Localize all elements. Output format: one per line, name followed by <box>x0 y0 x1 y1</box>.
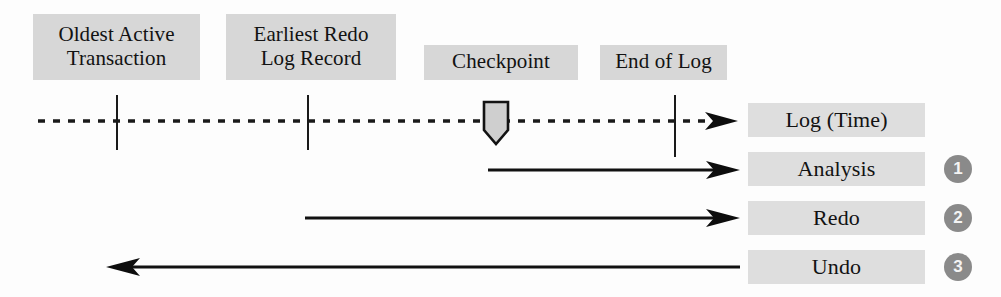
marker-label-line1: Oldest Active <box>58 23 174 47</box>
track-label-text: Analysis <box>798 157 876 182</box>
marker-label-line2: Log Record <box>261 47 362 71</box>
tick-earliest-redo-log-record <box>307 95 309 150</box>
step-badge-undo: 3 <box>944 253 972 281</box>
step-badge-analysis: 1 <box>944 155 972 183</box>
track-label-log-time: Log (Time) <box>748 103 925 137</box>
track-label-undo: Undo <box>748 250 925 284</box>
step-badge-number: 3 <box>953 257 962 277</box>
arrowhead-right-icon <box>706 161 740 179</box>
track-label-text: Undo <box>812 255 861 280</box>
track-label-text: Redo <box>813 206 860 231</box>
recovery-timeline-diagram: Oldest Active Transaction Earliest Redo … <box>0 0 1001 297</box>
arrowhead-right-icon <box>705 112 738 130</box>
track-label-redo: Redo <box>748 201 925 235</box>
marker-label-checkpoint: Checkpoint <box>424 45 578 80</box>
marker-label-end-of-log: End of Log <box>600 45 727 80</box>
marker-label-oldest-active-transaction: Oldest Active Transaction <box>33 14 200 80</box>
tick-end-of-log <box>674 95 676 157</box>
track-label-text: Log (Time) <box>785 108 887 133</box>
step-badge-number: 2 <box>953 208 962 228</box>
marker-label-line1: End of Log <box>615 50 712 74</box>
marker-label-line1: Earliest Redo <box>253 23 368 47</box>
marker-label-earliest-redo-log-record: Earliest Redo Log Record <box>226 14 396 80</box>
arrowhead-right-icon <box>706 209 740 227</box>
step-badge-redo: 2 <box>944 204 972 232</box>
arrowhead-left-icon <box>106 258 140 276</box>
marker-label-line1: Checkpoint <box>452 50 550 74</box>
tick-oldest-active-transaction <box>116 95 118 150</box>
step-badge-number: 1 <box>953 159 962 179</box>
checkpoint-pentagon-marker <box>484 102 508 144</box>
marker-label-line2: Transaction <box>67 47 167 71</box>
track-label-analysis: Analysis <box>748 152 925 186</box>
